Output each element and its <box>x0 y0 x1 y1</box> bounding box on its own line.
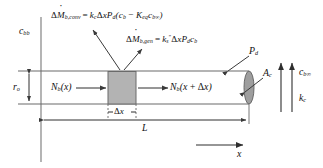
flux-out-label: Nb(x + Δx) <box>170 82 212 92</box>
biofilm-control-volume-figure: ΔMb,conv = kcΔxPd(cb − Keqcb∞) ΔMb,gen =… <box>0 0 323 168</box>
convection-equation: ΔMb,conv = kcΔxPd(cb − Keqcb∞) <box>51 11 163 20</box>
generation-leader-line <box>124 49 142 70</box>
mass-transfer-coefficient-label: kc <box>299 93 306 103</box>
perimeter-label: Pd <box>249 46 258 56</box>
convection-leader-line <box>93 30 120 70</box>
delta-x-label: Δx <box>114 107 124 116</box>
wall-concentration-label: cb∞ <box>299 67 311 77</box>
cross-section-area-label: Ac <box>263 68 272 78</box>
length-label: L <box>142 123 147 133</box>
pipe-end-cap-ellipse <box>244 71 254 104</box>
pipe-radius-label: ro <box>13 82 20 92</box>
perimeter-leader-line <box>228 56 249 71</box>
figure-vector-layer <box>0 0 323 168</box>
generation-equation: ΔMb,gen = ks″ΔxPdcb <box>126 35 197 44</box>
x-axis-label: x <box>237 149 241 159</box>
flux-in-label: Nb(x) <box>51 82 72 92</box>
bulk-concentration-left-label: cbb <box>19 26 30 36</box>
control-volume-slice <box>108 72 136 105</box>
